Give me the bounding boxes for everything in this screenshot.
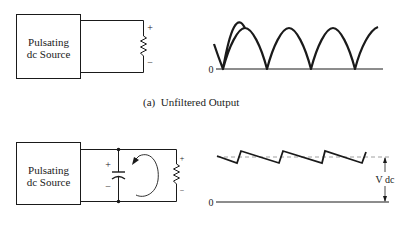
resistor-minus-b: − — [180, 186, 185, 195]
filtered-output-graph — [216, 151, 392, 202]
junction-dot-bottom — [117, 200, 121, 204]
resistor-a — [141, 36, 147, 56]
source-label-b-line2: dc Source — [27, 176, 71, 188]
discharge-loop-arrow — [136, 155, 158, 197]
junction-dot-top — [117, 148, 121, 152]
capacitor-minus: − — [105, 181, 111, 192]
resistor-b — [174, 164, 180, 184]
vdc-arrowhead-down-icon — [383, 196, 387, 202]
resistor-minus-a: − — [147, 57, 153, 68]
caption-a: (a) Unfiltered Output — [143, 96, 239, 109]
source-label-b-line1: Pulsating — [28, 164, 69, 176]
bottom-wire-b — [81, 184, 177, 202]
rectifier-filter-diagram: Pulsating dc Source + − 0 (a) Unfiltered… — [0, 0, 406, 225]
source-label-a-line2: dc Source — [27, 48, 71, 60]
top-wire-b — [81, 150, 177, 165]
zero-label-a: 0 — [209, 64, 214, 75]
full-wave-rectified-waveform — [214, 22, 378, 69]
resistor-plus-b: + — [180, 154, 185, 163]
vdc-label: V dc — [376, 174, 396, 185]
ripple-sawtooth-waveform — [217, 151, 366, 163]
bottom-wire-a — [81, 56, 144, 73]
zero-label-b: 0 — [209, 197, 214, 208]
vdc-arrowhead-up-icon — [383, 157, 387, 163]
unfiltered-output-graph — [214, 22, 383, 69]
resistor-plus-a: + — [147, 22, 153, 33]
source-label-a-line1: Pulsating — [28, 36, 69, 48]
loop-arrowhead-icon — [132, 157, 139, 165]
top-wire-a — [81, 21, 144, 37]
capacitor-plus: + — [105, 159, 111, 170]
